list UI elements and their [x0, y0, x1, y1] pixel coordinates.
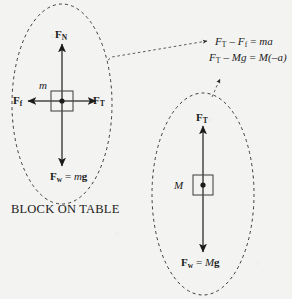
friction-force-label: Ff	[13, 95, 22, 107]
left-weight-force-label: Fw = mg	[50, 171, 87, 183]
left-block-center-dot	[59, 98, 64, 103]
right-mass-label: M	[174, 180, 183, 191]
right-weight-force-label: Fw = Mg	[181, 257, 220, 269]
left-system-caption: BLOCK ON TABLE	[11, 203, 120, 216]
hanging-equation-leader-line	[212, 79, 220, 97]
right-tension-force-label: FT	[196, 112, 208, 124]
normal-force-label: FN	[55, 29, 67, 41]
right-block-center-dot	[200, 182, 205, 187]
block-equation-leader-line	[108, 41, 207, 60]
left-tension-force-label: FT	[93, 95, 105, 107]
hanging-equation: FT – Mg = M(–a)	[209, 52, 287, 64]
block-equation: FT – Ff = ma	[215, 36, 273, 48]
free-body-diagram-figure: FN Ff FT m Fw = mg BLOCK ON TABLE FT M F…	[0, 0, 292, 299]
left-mass-label: m	[39, 80, 47, 91]
